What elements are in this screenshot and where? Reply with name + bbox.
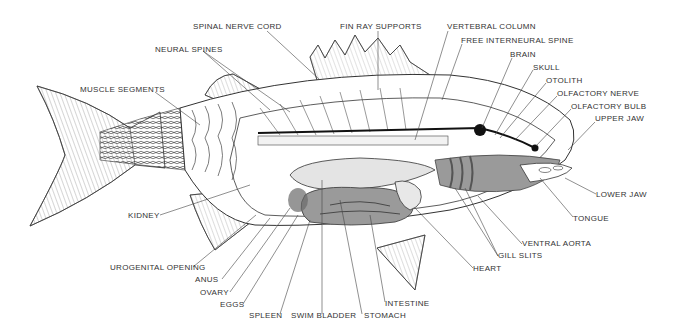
label-urogenital-opening: UROGENITAL OPENING — [110, 263, 206, 272]
label-intestine: INTESTINE — [385, 299, 429, 308]
ovary — [288, 188, 308, 212]
label-muscle-segments: MUSCLE SEGMENTS — [80, 85, 165, 94]
label-anus: ANUS — [195, 275, 218, 284]
label-free-interneural-spine: FREE INTERNEURAL SPINE — [461, 36, 574, 45]
label-tongue: TONGUE — [573, 214, 609, 223]
label-olfactory-bulb: OLFACTORY BULB — [571, 102, 646, 111]
label-brain: BRAIN — [510, 50, 536, 59]
label-spleen: SPLEEN — [249, 311, 282, 320]
olfactory-bulb — [532, 145, 539, 152]
label-vertebral-column: VERTEBRAL COLUMN — [447, 22, 536, 31]
label-olfactory-nerve: OLFACTORY NERVE — [557, 89, 639, 98]
label-swim-bladder: SWIM BLADDER — [291, 311, 356, 320]
label-skull: SKULL — [533, 63, 560, 72]
label-eggs: EGGS — [220, 300, 244, 309]
label-otolith: OTOLITH — [546, 76, 583, 85]
fish-anatomy-diagram: SPINAL NERVE CORD FIN RAY SUPPORTS VERTE… — [0, 0, 677, 333]
label-ventral-aorta: VENTRAL AORTA — [522, 239, 591, 248]
brain — [474, 124, 486, 136]
fish-illustration — [0, 0, 677, 333]
label-spinal-nerve-cord: SPINAL NERVE CORD — [193, 22, 282, 31]
vertebral-column — [258, 136, 448, 145]
label-upper-jaw: UPPER JAW — [595, 114, 644, 123]
label-gill-slits: GILL SLITS — [498, 251, 543, 260]
label-kidney: KIDNEY — [128, 211, 160, 220]
label-stomach: STOMACH — [364, 311, 406, 320]
label-fin-ray-supports: FIN RAY SUPPORTS — [340, 22, 422, 31]
label-ovary: OVARY — [200, 288, 229, 297]
label-neural-spines: NEURAL SPINES — [155, 45, 223, 54]
label-heart: HEART — [473, 264, 501, 273]
label-lower-jaw: LOWER JAW — [596, 190, 647, 199]
stomach — [301, 187, 413, 225]
